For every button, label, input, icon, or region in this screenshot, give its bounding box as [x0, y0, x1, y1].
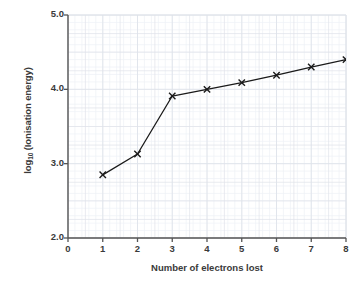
y-tick-label: 2.0 — [38, 231, 64, 242]
y-tick-label: 5.0 — [38, 8, 64, 19]
y-axis-title-subscript: 10 — [27, 153, 34, 160]
y-tick-label-group: 2.03.04.05.0 — [36, 0, 64, 282]
x-axis-title: Number of electrons lost — [68, 262, 346, 273]
gridlines — [68, 15, 346, 238]
y-axis-title: log10 (Ionisation energy) — [22, 31, 33, 211]
x-tick-label: 1 — [93, 243, 113, 254]
x-tick-label-group: 012345678 — [0, 243, 359, 259]
y-axis-title-rest: (Ionisation energy) — [22, 67, 33, 153]
ionisation-energy-line-chart: 2.03.04.05.0 012345678 log10 (Ionisation… — [0, 0, 359, 282]
y-tick-label: 4.0 — [38, 82, 64, 93]
y-axis-title-main: log — [22, 160, 33, 174]
x-tick-label: 3 — [162, 243, 182, 254]
x-tick-label: 2 — [128, 243, 148, 254]
x-tick-label: 4 — [197, 243, 217, 254]
x-tick-label: 6 — [267, 243, 287, 254]
y-tick-label: 3.0 — [38, 157, 64, 168]
x-tick-label: 0 — [58, 243, 78, 254]
x-tick-label: 8 — [336, 243, 356, 254]
x-tick-label: 5 — [232, 243, 252, 254]
x-tick-label: 7 — [301, 243, 321, 254]
